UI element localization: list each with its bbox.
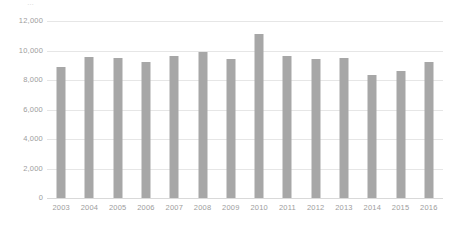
x-axis-tick-label: 2008	[188, 203, 216, 213]
bar-slot	[188, 21, 216, 198]
bar[interactable]	[424, 62, 433, 198]
bar-slot	[75, 21, 103, 198]
bar-slot	[358, 21, 386, 198]
y-axis-tick-label: 10,000	[3, 47, 43, 55]
bar-series	[47, 21, 443, 198]
x-axis-tick-label: 2006	[132, 203, 160, 213]
x-axis-tick-label: 2014	[358, 203, 386, 213]
bar[interactable]	[339, 58, 348, 198]
bar-slot	[245, 21, 273, 198]
bar[interactable]	[283, 56, 292, 198]
x-axis-tick-label: 2011	[273, 203, 301, 213]
x-axis: 2003200420052006200720082009201020112012…	[47, 203, 443, 217]
bar[interactable]	[396, 71, 405, 198]
bar[interactable]	[141, 62, 150, 198]
bar[interactable]	[368, 75, 377, 198]
bar-chart: … 02,0004,0006,0008,00010,00012,000 2003…	[0, 0, 451, 234]
y-axis-tick-label: 6,000	[3, 106, 43, 114]
y-axis-tick-label: 0	[3, 194, 43, 202]
bar[interactable]	[198, 52, 207, 198]
x-axis-tick-label: 2004	[75, 203, 103, 213]
bar-slot	[217, 21, 245, 198]
bar-slot	[302, 21, 330, 198]
bar[interactable]	[255, 34, 264, 198]
bar-slot	[273, 21, 301, 198]
bar-slot	[330, 21, 358, 198]
x-axis-tick-label: 2007	[160, 203, 188, 213]
x-axis-tick-label: 2012	[302, 203, 330, 213]
x-axis-tick-label: 2005	[104, 203, 132, 213]
x-axis-tick-label: 2015	[386, 203, 414, 213]
y-axis-tick-label: 12,000	[3, 17, 43, 25]
bar-slot	[47, 21, 75, 198]
bar[interactable]	[57, 67, 66, 198]
cropped-header-text: …	[27, 0, 53, 5]
y-axis-tick-label: 8,000	[3, 76, 43, 84]
bar[interactable]	[226, 59, 235, 198]
bar-slot	[160, 21, 188, 198]
bar[interactable]	[85, 57, 94, 198]
bar[interactable]	[113, 58, 122, 198]
bar-slot	[386, 21, 414, 198]
bar-slot	[104, 21, 132, 198]
x-axis-tick-label: 2009	[217, 203, 245, 213]
x-axis-tick-label: 2016	[415, 203, 443, 213]
bar[interactable]	[170, 56, 179, 198]
y-axis-tick-label: 2,000	[3, 165, 43, 173]
x-axis-tick-label: 2010	[245, 203, 273, 213]
y-axis-tick-label: 4,000	[3, 135, 43, 143]
bar-slot	[132, 21, 160, 198]
bar[interactable]	[311, 59, 320, 198]
y-axis: 02,0004,0006,0008,00010,00012,000	[0, 21, 43, 198]
x-axis-tick-label: 2013	[330, 203, 358, 213]
bar-slot	[415, 21, 443, 198]
axis-baseline	[47, 198, 443, 199]
x-axis-tick-label: 2003	[47, 203, 75, 213]
